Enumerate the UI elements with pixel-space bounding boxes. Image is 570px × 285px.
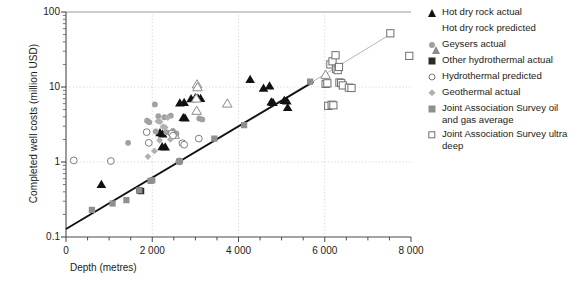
y-tick-label: 10: [26, 81, 60, 92]
legend-item-label: Hot dry rock predicted: [442, 22, 536, 34]
legend-item-label: Geysers actual: [442, 38, 506, 50]
data-point: [136, 187, 142, 193]
data-point: [181, 141, 188, 148]
x-ticks: [66, 237, 411, 242]
y-tick-label: 0.1: [26, 231, 60, 242]
circle-open-icon: [425, 71, 439, 83]
legend-item-0[interactable]: Hot dry rock actual: [425, 6, 570, 19]
data-point: [348, 84, 355, 91]
legend-item-label: Geothermal actual: [442, 86, 520, 98]
gridlines: [66, 12, 411, 237]
legend-item-5[interactable]: Geothermal actual: [425, 86, 570, 99]
data-point: [406, 52, 413, 59]
data-point: [125, 140, 131, 146]
data-point: [149, 177, 155, 183]
data-point: [153, 129, 159, 135]
x-tick-label: 6 000: [295, 245, 355, 256]
legend-item-1[interactable]: Hot dry rock predicted: [425, 22, 570, 35]
legend-item-4[interactable]: Hydrothermal predicted: [425, 70, 570, 83]
chart-legend: Hot dry rock actualHot dry rock predicte…: [425, 6, 570, 154]
series-0: [97, 75, 293, 188]
data-point: [70, 157, 77, 164]
data-point: [199, 116, 205, 122]
x-axis-title: Depth (metres): [70, 262, 137, 273]
data-point: [330, 102, 337, 109]
y-axis-title: Completed well costs (million USD): [28, 19, 39, 229]
legend-item-label: Hydrothermal predicted: [442, 70, 542, 82]
data-point: [245, 75, 255, 83]
legend-item-label: Hot dry rock actual: [442, 6, 522, 18]
diamond-icon: [425, 87, 439, 99]
data-point: [387, 30, 394, 37]
data-point: [97, 180, 107, 188]
legend-item-label: Joint Association Survey oil and gas ave…: [442, 102, 570, 125]
square-dark-icon: [425, 55, 439, 67]
square-open-icon: [425, 129, 439, 141]
triangle-filled-icon: [425, 7, 439, 19]
series-2: [125, 102, 205, 146]
data-point: [145, 153, 152, 160]
legend-item-label: Other hydrothermal actual: [442, 54, 553, 66]
series-7: [322, 30, 413, 110]
trend-lines: [66, 33, 392, 229]
x-tick-label: 2 000: [122, 245, 182, 256]
data-point: [145, 139, 152, 146]
data-point: [335, 63, 342, 70]
data-point: [195, 135, 202, 142]
data-point: [107, 158, 114, 165]
data-point: [332, 52, 339, 59]
legend-item-6[interactable]: Joint Association Survey oil and gas ave…: [425, 102, 570, 125]
y-ticks: [61, 12, 66, 237]
data-point: [265, 81, 275, 89]
data-point: [241, 122, 247, 128]
data-point: [155, 113, 161, 119]
circle-filled-icon: [425, 39, 439, 51]
legend-item-2[interactable]: Geysers actual: [425, 38, 570, 51]
x-tick-label: 4 000: [209, 245, 269, 256]
data-point: [123, 197, 129, 203]
chart-figure: Completed well costs (million USD) Depth…: [0, 0, 570, 285]
data-point: [152, 102, 158, 108]
data-point: [222, 99, 232, 107]
triangle-open-icon: [425, 23, 439, 35]
y-tick-label: 100: [26, 6, 60, 17]
data-point: [307, 79, 313, 85]
data-point: [176, 158, 182, 164]
legend-item-3[interactable]: Other hydrothermal actual: [425, 54, 570, 67]
data-point: [89, 207, 95, 213]
data-point: [143, 129, 150, 136]
y-tick-label: 1: [26, 156, 60, 167]
square-grey-icon: [425, 103, 439, 115]
x-tick-label: 0: [36, 245, 96, 256]
data-point: [109, 200, 115, 206]
data-point: [211, 136, 217, 142]
data-point: [324, 80, 331, 87]
data-point: [146, 119, 152, 125]
data-point: [192, 106, 202, 114]
legend-item-7[interactable]: Joint Association Survey ultra deep: [425, 128, 570, 151]
x-tick-label: 8 000: [381, 245, 441, 256]
legend-item-label: Joint Association Survey ultra deep: [442, 128, 570, 151]
